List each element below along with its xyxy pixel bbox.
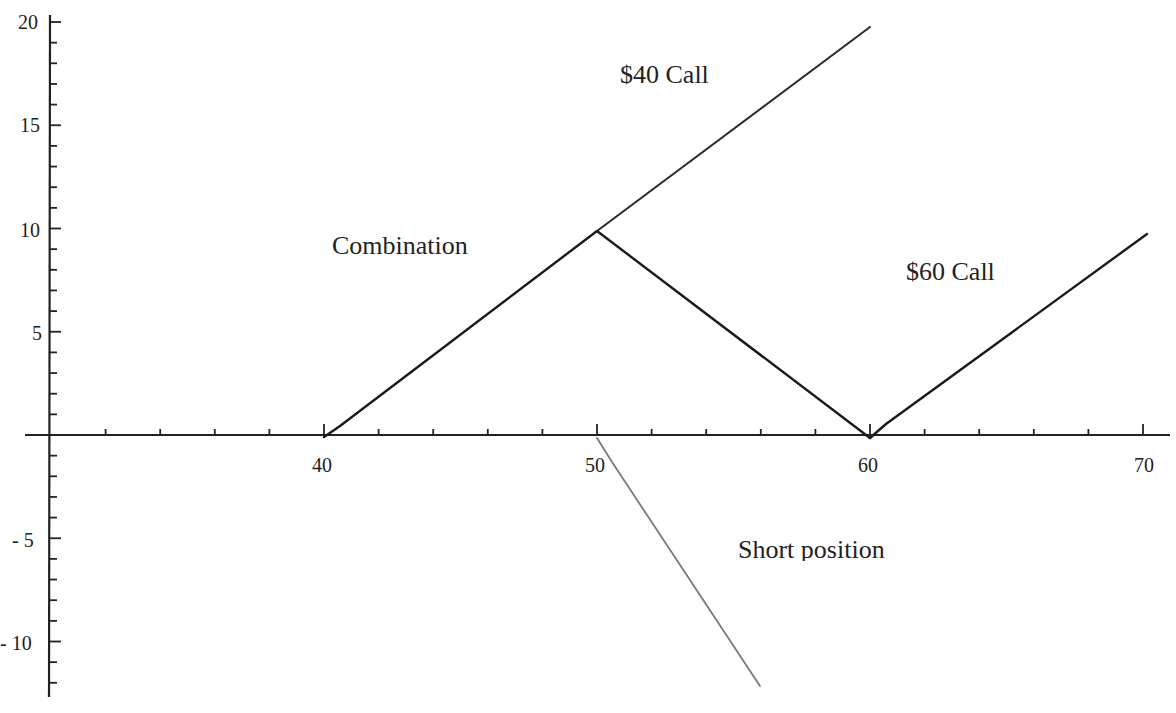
y-tick-label-minus-5: - 5 xyxy=(12,529,34,552)
y-tick-label-10: 10 xyxy=(20,219,40,242)
short-position-line xyxy=(597,438,760,686)
x-tick-label-40: 40 xyxy=(312,454,332,477)
y-tick-label-20: 20 xyxy=(18,11,38,34)
y-tick-label-minus-10: - 10 xyxy=(0,632,32,655)
combination-label: Combination xyxy=(332,231,468,261)
y-axis xyxy=(49,15,50,697)
short-position-label: Short position xyxy=(738,535,885,561)
series-lines xyxy=(324,27,1147,686)
y-axis-ticks xyxy=(50,22,61,683)
x-axis-ticks xyxy=(106,424,1143,435)
x-tick-label-50: 50 xyxy=(585,454,605,477)
call40-label: $40 Call xyxy=(620,60,709,90)
combination-line xyxy=(324,231,870,438)
call40-line xyxy=(597,27,870,231)
y-tick-label-15: 15 xyxy=(20,114,40,137)
payoff-chart xyxy=(0,0,1176,713)
y-tick-label-5: 5 xyxy=(32,322,42,345)
x-tick-label-60: 60 xyxy=(858,454,878,477)
x-tick-label-70: 70 xyxy=(1134,454,1154,477)
call60-label: $60 Call xyxy=(906,257,995,287)
axes xyxy=(25,15,1170,697)
